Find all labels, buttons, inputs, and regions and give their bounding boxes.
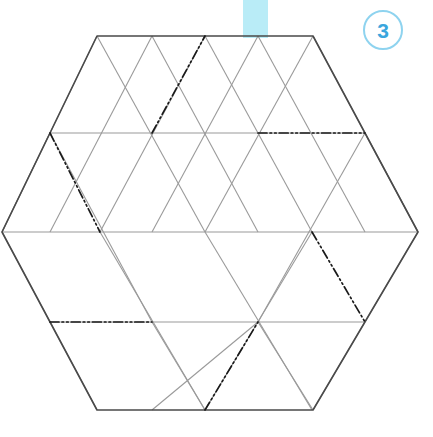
triangular-grid-group: [2, 36, 418, 410]
fold-lower-right-diagonal: [312, 232, 365, 322]
diag-left-down-l: [258, 322, 313, 410]
diag-right-down-j: [152, 322, 258, 410]
diag-left-down-i: [152, 322, 205, 410]
step-number-label: 3: [377, 20, 389, 41]
figure-canvas: 3: [0, 0, 433, 437]
hexagon-fold-diagram: [0, 0, 433, 437]
diag-right-down-b: [50, 36, 152, 232]
fold-lines-group: [50, 36, 365, 410]
diag-left-down-b: [258, 36, 365, 232]
step-number-badge: 3: [363, 10, 403, 50]
